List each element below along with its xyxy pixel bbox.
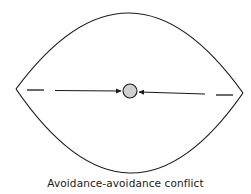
lens-bottom-arc [16,89,243,173]
diagram-caption: Avoidance-avoidance conflict [0,177,251,189]
lens-top-arc [16,13,243,93]
center-point [123,84,137,98]
conflict-diagram [0,0,251,194]
left-arrow [55,91,121,92]
right-arrow [139,92,205,94]
